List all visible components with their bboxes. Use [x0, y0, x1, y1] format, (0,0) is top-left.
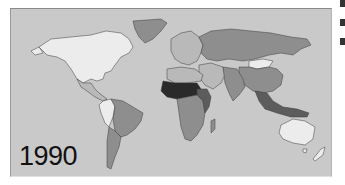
region-tasmania: [303, 149, 307, 153]
world-map-frame: 1990: [10, 8, 332, 177]
region-central-america: [77, 79, 107, 101]
region-china: [239, 67, 283, 93]
edge-mark: [340, 19, 345, 26]
edge-mark: [340, 0, 345, 7]
region-soviet-union: [199, 29, 311, 61]
region-brazil: [111, 99, 143, 137]
year-label: 1990: [19, 143, 77, 170]
right-edge-marks: [340, 0, 345, 70]
region-new-zealand: [313, 147, 325, 161]
region-central-southern-africa: [177, 95, 205, 141]
region-southeast-asia: [255, 91, 309, 117]
region-australia: [279, 119, 315, 145]
region-north-africa: [167, 67, 203, 83]
region-europe: [171, 31, 203, 65]
region-greenland: [133, 19, 167, 43]
edge-mark: [340, 38, 345, 45]
region-north-america: [39, 31, 133, 83]
region-madagascar: [211, 119, 215, 133]
region-andean-south-america: [99, 99, 115, 127]
